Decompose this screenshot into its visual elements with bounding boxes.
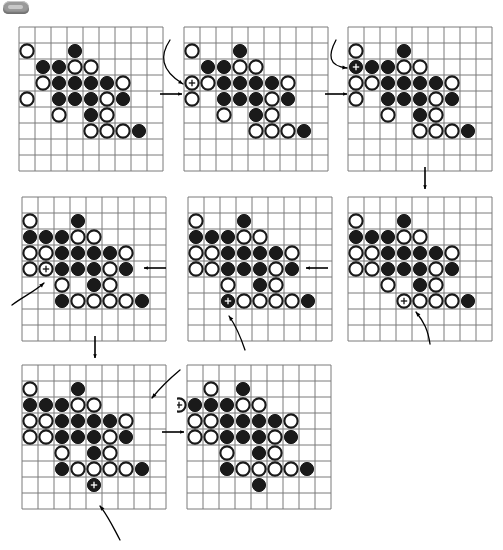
white-stone — [71, 230, 84, 243]
white-stone — [445, 76, 458, 89]
white-stone — [84, 124, 97, 137]
black-stone — [84, 92, 97, 105]
white-stone — [233, 60, 246, 73]
black-stone — [429, 76, 442, 89]
white-stone — [119, 462, 132, 475]
white-stone — [253, 230, 266, 243]
black-stone — [23, 230, 36, 243]
white-stone — [55, 278, 68, 291]
white-stone — [445, 294, 458, 307]
black-stone — [55, 294, 68, 307]
black-stone — [87, 246, 100, 259]
black-stone — [201, 60, 214, 73]
white-stone — [52, 108, 65, 121]
black-stone — [281, 92, 294, 105]
black-stone — [397, 246, 410, 259]
black-stone — [220, 398, 233, 411]
white-stone — [87, 294, 100, 307]
arrow-arrow-3-4 — [418, 165, 432, 193]
black-stone — [252, 446, 265, 459]
white-stone — [204, 430, 217, 443]
white-stone — [205, 246, 218, 259]
arrow-arrow-6-7 — [88, 334, 102, 362]
go-board-position-2[interactable] — [174, 17, 338, 181]
white-stone — [71, 462, 84, 475]
black-stone — [52, 76, 65, 89]
black-stone — [285, 262, 298, 275]
white-stone — [429, 92, 442, 105]
white-stone — [429, 124, 442, 137]
white-stone — [265, 108, 278, 121]
black-stone — [23, 398, 36, 411]
black-stone — [217, 60, 230, 73]
white-stone — [429, 278, 442, 291]
go-board-position-1[interactable] — [9, 17, 173, 181]
white-stone — [116, 124, 129, 137]
black-stone — [284, 430, 297, 443]
white-stone — [103, 430, 116, 443]
black-stone — [233, 76, 246, 89]
black-stone — [253, 278, 266, 291]
white-stone — [445, 246, 458, 259]
white-stone — [237, 230, 250, 243]
white-stone — [23, 214, 36, 227]
black-stone — [233, 92, 246, 105]
black-stone — [269, 246, 282, 259]
white-stone — [445, 124, 458, 137]
white-stone — [237, 294, 250, 307]
white-stone — [23, 430, 36, 443]
white-stone — [189, 262, 202, 275]
white-stone — [413, 294, 426, 307]
white-stone — [252, 462, 265, 475]
white-stone — [71, 398, 84, 411]
black-stone — [39, 230, 52, 243]
black-stone — [55, 262, 68, 275]
black-stone — [236, 430, 249, 443]
black-stone — [71, 214, 84, 227]
white-stone — [221, 278, 234, 291]
white-stone — [268, 462, 281, 475]
go-board-position-4[interactable] — [338, 187, 502, 351]
white-stone — [269, 294, 282, 307]
black-stone — [236, 382, 249, 395]
white-stone — [365, 246, 378, 259]
black-stone — [253, 262, 266, 275]
white-stone — [116, 76, 129, 89]
go-board-position-7[interactable] — [12, 355, 176, 519]
white-stone — [87, 398, 100, 411]
white-stone — [349, 92, 362, 105]
black-stone — [39, 398, 52, 411]
black-stone — [55, 462, 68, 475]
black-stone — [252, 478, 265, 491]
white-stone — [429, 108, 442, 121]
black-stone — [55, 398, 68, 411]
black-stone — [413, 246, 426, 259]
white-stone — [413, 230, 426, 243]
go-board-position-3[interactable] — [338, 17, 502, 181]
black-stone — [268, 414, 281, 427]
black-stone — [445, 262, 458, 275]
black-stone — [397, 262, 410, 275]
black-stone — [205, 230, 218, 243]
black-stone — [132, 124, 145, 137]
black-stone — [297, 124, 310, 137]
black-stone — [220, 414, 233, 427]
white-stone — [253, 294, 266, 307]
white-stone — [429, 262, 442, 275]
white-stone — [381, 108, 394, 121]
white-stone — [349, 214, 362, 227]
black-stone — [217, 76, 230, 89]
white-stone — [204, 382, 217, 395]
black-stone — [204, 398, 217, 411]
go-board-position-8[interactable] — [177, 355, 341, 519]
white-stone — [365, 262, 378, 275]
white-stone — [103, 262, 116, 275]
white-stone — [103, 446, 116, 459]
white-stone — [269, 278, 282, 291]
black-stone — [413, 108, 426, 121]
white-stone — [349, 44, 362, 57]
white-stone — [188, 414, 201, 427]
white-stone — [285, 246, 298, 259]
white-stone — [265, 124, 278, 137]
black-stone — [55, 414, 68, 427]
